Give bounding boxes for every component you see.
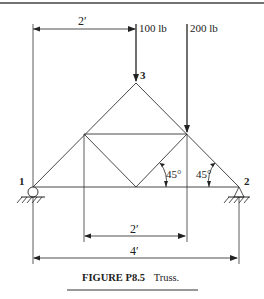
- dimension-bottom-total-label: 4′: [130, 244, 139, 259]
- angle-label-left: 45°: [166, 168, 181, 180]
- caption-label: FIGURE P8.5: [82, 272, 145, 283]
- angle-label-right: 45°: [196, 168, 211, 180]
- load-200lb-label: 200 lb: [190, 22, 218, 34]
- load-100lb-label: 100 lb: [139, 22, 167, 34]
- support-node-2: [224, 187, 250, 203]
- support-node-1: [17, 187, 45, 203]
- node-1-label: 1: [19, 175, 25, 187]
- node-2-label: 2: [244, 175, 250, 187]
- figure-caption: FIGURE P8.5 Truss.: [82, 272, 179, 283]
- node-3-label: 3: [140, 69, 146, 81]
- dimension-top-label: 2′: [78, 14, 87, 29]
- caption-text: Truss.: [154, 272, 180, 283]
- dimension-bottom-inner-label: 2′: [130, 222, 139, 237]
